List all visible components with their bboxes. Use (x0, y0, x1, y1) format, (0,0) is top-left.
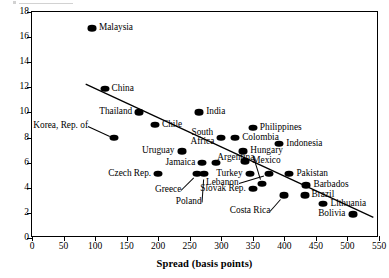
data-point-label: Colombia (242, 133, 279, 142)
data-point-label: Chile (162, 120, 182, 129)
x-axis-tick-label: 150 (120, 242, 134, 252)
data-point-label: Poland (176, 197, 202, 206)
y-axis-tick-label: 4 (24, 183, 29, 193)
data-point-label: Greece (155, 185, 181, 194)
x-axis-tick-label: 550 (372, 242, 386, 252)
data-point-label: Thailand (99, 108, 132, 117)
scatter-plot-figure: MalaysiaChinaThailandIndiaChileKorea, Re… (0, 0, 389, 278)
data-point-label: Costa Rica (230, 207, 271, 216)
x-axis-tick-label: 50 (59, 242, 69, 252)
data-point-label: Lithuania (330, 199, 366, 208)
data-point-label: Uruguay (142, 147, 175, 156)
data-point-label: Hungary (250, 147, 283, 156)
y-axis-tick-label: 14 (20, 57, 30, 67)
data-point-label: Pakistan (296, 169, 328, 178)
data-point-label: Argentina (217, 153, 254, 162)
y-axis-tick-label: 2 (24, 208, 29, 218)
cropped-header-artifact (13, 1, 73, 5)
data-point-label: Slovak Rep. (200, 184, 245, 193)
data-point-label: SouthAfrica (191, 128, 215, 148)
data-point-label: Philippines (260, 123, 302, 132)
y-axis-tick-label: 8 (24, 133, 29, 143)
y-axis-tick-label: 6 (24, 158, 29, 168)
x-axis-tick-label: 450 (309, 242, 323, 252)
y-axis-tick-label: 12 (20, 83, 30, 93)
x-axis-tick-label: 400 (277, 242, 291, 252)
x-axis-title: Spread (basis points) (31, 258, 378, 269)
data-point-label: China (112, 84, 134, 93)
plot-area: MalaysiaChinaThailandIndiaChileKorea, Re… (31, 11, 378, 237)
data-point-label: Czech Rep. (108, 169, 151, 178)
x-axis-tick-label: 500 (340, 242, 354, 252)
x-axis-tick-label: 100 (88, 242, 102, 252)
x-axis-tick-label: 200 (151, 242, 165, 252)
data-point-label: Mexico (252, 157, 280, 166)
data-point-label: Malaysia (99, 24, 133, 33)
data-point-label: Korea, Rep. of (33, 121, 88, 130)
data-point-label: Barbados (313, 181, 348, 190)
data-point-label: Indonesia (286, 139, 322, 148)
data-point-label: India (206, 108, 225, 117)
x-axis-tick-label: 250 (183, 242, 197, 252)
data-point-label: Jamaica (165, 158, 195, 167)
data-point-label: Bolivia (318, 209, 345, 218)
x-axis-tick-label: 300 (214, 242, 228, 252)
x-axis-tick-label: 350 (246, 242, 260, 252)
y-axis-tick-label: 18 (20, 7, 30, 17)
y-axis-tick-label: 0 (24, 233, 29, 243)
x-axis-tick-label: 0 (30, 242, 35, 252)
y-axis-tick-label: 10 (20, 108, 30, 118)
y-axis-tick-label: 16 (20, 32, 30, 42)
